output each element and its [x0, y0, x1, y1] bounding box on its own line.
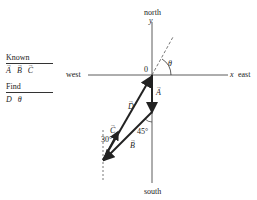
origin-label: 0	[144, 66, 148, 74]
known-item-c: C	[28, 67, 33, 75]
south-label: south	[144, 188, 161, 196]
angle-45-arc	[145, 119, 152, 122]
x-axis-label: x	[230, 71, 234, 79]
known-items: A B C	[6, 67, 33, 75]
angle-45-label: 45°	[137, 128, 148, 136]
find-heading: Find	[6, 83, 21, 91]
vector-c-label: C	[110, 127, 115, 135]
find-underline	[6, 92, 53, 93]
known-item-b: B	[17, 67, 22, 75]
angle-30-label: 30°	[101, 136, 112, 144]
theta-label: θ	[168, 60, 172, 68]
known-item-a: A	[6, 67, 11, 75]
find-items: D θ	[6, 96, 22, 104]
y-axis-label: y	[149, 17, 153, 25]
vector-d	[103, 77, 151, 160]
vector-a-label: A	[156, 89, 161, 97]
east-label: east	[238, 71, 250, 79]
vector-b-label: B	[130, 142, 135, 150]
vector-d-label: D	[128, 103, 134, 111]
west-label: west	[66, 71, 81, 79]
find-item-theta: θ	[18, 95, 22, 104]
find-item-d: D	[6, 95, 12, 104]
